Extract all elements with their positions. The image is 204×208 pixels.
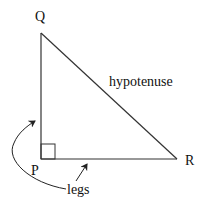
diagram-canvas: Q P R hypotenuse legs: [0, 0, 204, 208]
vertex-label-p: P: [31, 163, 39, 178]
hypotenuse-label: hypotenuse: [109, 74, 173, 89]
legs-label: legs: [67, 182, 90, 197]
hypotenuse-qr: [41, 33, 177, 159]
legs-arrow-to-pr: [76, 164, 87, 181]
vertex-label-r: R: [185, 153, 195, 168]
vertex-label-q: Q: [35, 9, 45, 24]
legs-arrow-to-pq: [12, 121, 66, 189]
right-triangle-diagram: Q P R hypotenuse legs: [0, 0, 204, 208]
right-angle-marker: [41, 144, 55, 159]
